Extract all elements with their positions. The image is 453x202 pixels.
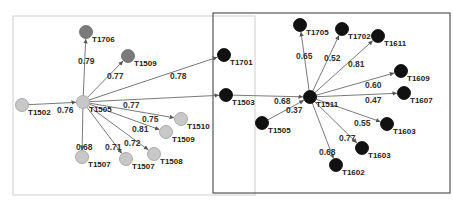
node-label: T1609 [407,74,430,83]
edge-arrow [301,32,309,91]
graph-node[interactable]: T1607 [398,87,434,106]
graph-node[interactable]: T1701 [218,49,254,68]
node-circle-icon[interactable] [381,118,394,131]
node-label: T1505 [268,126,291,135]
edge-arrow [316,93,397,96]
network-diagram: 0.790.770.780.760.770.750.810.680.710.72… [0,0,453,202]
graph-node[interactable]: T1510 [175,113,211,132]
node-circle-icon[interactable] [77,96,90,109]
edge-weight-label: 0.78 [170,71,187,81]
node-circle-icon[interactable] [80,26,93,39]
node-label: T1509 [172,135,195,144]
edge-weight-label: 0.79 [78,56,95,66]
edge-weight-label: 0.68 [319,147,336,157]
graph-node[interactable]: T1705 [294,19,330,38]
edge-arrow [83,39,85,96]
graph-node[interactable]: T1702 [336,23,372,42]
node-label: T1702 [348,32,371,41]
node-circle-icon[interactable] [160,126,173,139]
graph-node[interactable]: T1706 [80,26,116,45]
node-label: T1607 [410,96,433,105]
edge-weight-label: 0.52 [324,53,341,63]
graph-node[interactable]: T1509 [122,50,158,69]
edge-weight-label: 0.71 [105,142,122,152]
edge-weight-label: 0.76 [57,105,74,115]
edge-weight-label: 0.47 [365,95,382,105]
node-circle-icon[interactable] [76,151,89,164]
node-circle-icon[interactable] [16,99,29,112]
graph-node[interactable]: T1511 [304,91,339,110]
node-label: T1706 [92,35,115,44]
edge-weight-label: 0.37 [286,105,303,115]
graph-node[interactable]: T1611 [372,30,407,49]
graph-node[interactable]: T1507 [76,151,112,170]
graph-node[interactable]: T1602 [330,159,366,178]
node-circle-icon[interactable] [256,117,269,130]
node-label: T1602 [342,168,365,177]
node-circle-icon[interactable] [356,142,369,155]
node-label: T1503 [232,98,255,107]
node-circle-icon[interactable] [120,153,133,166]
edge-weight-label: 0.75 [142,114,159,124]
edge-weight-label: 0.72 [124,138,141,148]
edge-weight-label: 0.60 [365,80,382,90]
edge-weight-label: 0.68 [76,142,93,152]
edge-weight-label: 0.81 [348,59,365,69]
graph-node[interactable]: T1505 [256,117,292,136]
node-label: T1510 [187,122,210,131]
edge-weight-label: 0.55 [354,118,371,128]
node-label: T1509 [134,59,157,68]
node-label: T1507 [132,162,155,171]
node-label: T1511 [316,100,339,109]
edge-arrow [316,73,394,95]
node-circle-icon[interactable] [304,91,317,104]
edge-weight-label: 0.77 [107,71,124,81]
graph-node[interactable]: T1603 [356,142,392,161]
node-circle-icon[interactable] [372,30,385,43]
graph-node[interactable]: T1502 [16,99,52,118]
node-circle-icon[interactable] [330,159,343,172]
node-circle-icon[interactable] [398,87,411,100]
graph-node[interactable]: T1503 [220,89,256,108]
node-circle-icon[interactable] [395,65,408,78]
node-label: T1705 [306,28,329,37]
graph-node[interactable]: T1609 [395,65,431,84]
node-circle-icon[interactable] [148,148,161,161]
edge-weight-label: 0.65 [296,51,313,61]
node-circle-icon[interactable] [122,50,135,63]
edge-weight-label: 0.77 [339,133,356,143]
edge-arrow [232,95,303,97]
node-label: T1701 [230,58,253,67]
node-circle-icon[interactable] [220,89,233,102]
node-label: T1611 [384,39,407,48]
edge-arrow [89,95,219,101]
edge-weight-label: 0.81 [132,124,149,134]
node-label: T1603 [393,127,416,136]
graph-node[interactable]: T1603 [381,118,417,137]
node-label: T1505 [89,105,112,114]
node-circle-icon[interactable] [294,19,307,32]
node-circle-icon[interactable] [175,113,188,126]
node-label: T1603 [368,151,391,160]
node-circle-icon[interactable] [218,49,231,62]
node-label: T1507 [88,160,111,169]
node-label: T1502 [28,108,51,117]
node-circle-icon[interactable] [336,23,349,36]
edge-weight-label: 0.77 [123,100,140,110]
node-label: T1508 [160,157,183,166]
